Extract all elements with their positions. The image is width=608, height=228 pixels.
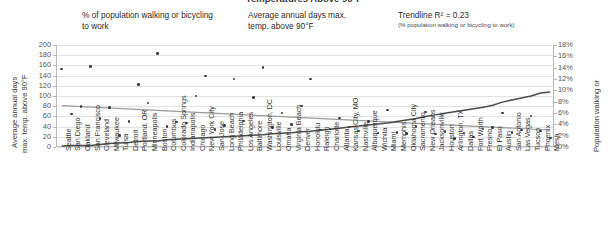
x-axis-labels: SeattleSan DiegoOaklandSan FranciscoClev… — [56, 148, 554, 228]
x-axis-tick-label: Raleigh — [322, 127, 331, 151]
x-axis-tick-label: Columbus — [169, 119, 178, 151]
x-axis-tick-label: Oklahoma City — [409, 104, 418, 151]
scatter-point — [128, 120, 131, 123]
chart-title: Temperatures Above 90°F — [0, 0, 608, 4]
x-axis-tick-label: Fort Worth — [476, 117, 485, 151]
x-axis-tick-label: Detroit — [131, 130, 140, 151]
x-axis-tick-label: Los Angeles — [246, 112, 255, 151]
right-axis-tick-label: 4% — [558, 119, 588, 128]
left-axis-tick-label: 0 — [25, 142, 51, 151]
scatter-point — [290, 123, 293, 126]
scatter-point — [60, 68, 63, 71]
scatter-point — [108, 106, 111, 109]
legend-label-hot-days: Average annual days max. temp. above 90°… — [248, 10, 368, 31]
x-axis-tick-label: Boston — [160, 129, 169, 151]
x-axis-tick-label: Las Vegas — [523, 117, 532, 151]
x-axis-tick-label: Arlington, TX — [456, 110, 465, 151]
x-axis-tick-label: Colorado Springs — [179, 95, 188, 151]
chart-legend: % of population walking or bicycling to … — [0, 10, 608, 40]
x-axis-tick-label: New York City — [207, 106, 216, 151]
scatter-point — [137, 83, 140, 86]
x-axis-tick-label: Seattle — [64, 129, 73, 151]
x-axis-tick-label: Denver — [303, 128, 312, 151]
x-axis-tick-label: Memphis — [399, 122, 408, 151]
x-axis-tick-label: Baltimore — [255, 121, 264, 151]
left-axis-title-line1: Average annual days — [10, 77, 19, 148]
x-axis-tick-label: Atlanta — [342, 129, 351, 151]
left-axis-tick-label: 120 — [25, 81, 51, 90]
x-axis-tick-label: Tulsa — [121, 134, 130, 151]
legend-label-percent-walking: % of population walking or bicycling to … — [82, 10, 222, 31]
right-axis-tick-label: 8% — [558, 97, 588, 106]
x-axis-tick-label: Houston — [447, 124, 456, 151]
left-axis-tick-label: 140 — [25, 71, 51, 80]
x-axis-tick-label: Louisville — [274, 121, 283, 151]
left-axis-tick-label: 80 — [25, 101, 51, 110]
left-axis-tick-label: 200 — [25, 40, 51, 49]
x-axis-tick-label: Milwaukee — [112, 117, 121, 151]
x-axis-tick-label: Albuquerque — [370, 110, 379, 151]
x-axis-tick-label: Mesa — [552, 133, 561, 151]
left-axis-tick-label: 100 — [25, 91, 51, 100]
x-axis-tick-label: Washington, DC — [265, 99, 274, 151]
left-axis-tick-label: 60 — [25, 111, 51, 120]
x-axis-tick-label: El Paso — [495, 126, 504, 151]
legend-label-trendline: Trendline R² = 0.23 — [398, 10, 469, 21]
x-axis-tick-label: Tucson — [533, 128, 542, 151]
x-axis-tick-label: Long Beach — [227, 113, 236, 151]
left-axis-tick-label: 160 — [25, 60, 51, 69]
x-axis-tick-label: San Jose — [217, 121, 226, 151]
x-axis-tick-label: San Antonio — [514, 112, 523, 151]
scatter-point — [89, 65, 92, 68]
x-axis-tick-label: San Francisco — [93, 105, 102, 151]
x-axis-tick-label: Nashville — [361, 122, 370, 151]
scatter-point — [252, 96, 255, 99]
left-axis-tick-label: 40 — [25, 122, 51, 131]
x-axis-tick-label: Dallas — [466, 131, 475, 151]
scatter-point — [262, 66, 265, 69]
scatter-point — [501, 112, 504, 115]
x-axis-tick-label: San Diego — [73, 117, 82, 151]
x-axis-tick-label: Portland, OR — [140, 109, 149, 151]
right-axis-tick-label: 6% — [558, 108, 588, 117]
x-axis-tick-label: Honolulu — [313, 123, 322, 151]
x-axis-tick-label: Minneapolis — [150, 113, 159, 151]
legend-dot-marker-icon — [66, 14, 68, 32]
x-axis-tick-label: New Orleans — [428, 109, 437, 151]
x-axis-tick-label: Sacramento — [418, 112, 427, 151]
x-axis-tick-label: Virginia Beach — [294, 105, 303, 151]
right-axis-tick-label: 18% — [558, 40, 588, 49]
x-axis-tick-label: Wichita — [380, 127, 389, 151]
x-axis-tick-label: Charlotte — [332, 122, 341, 151]
x-axis-tick-label: Cleveland — [102, 119, 111, 151]
right-axis-title: Population walking or — [592, 80, 601, 152]
x-axis-tick-label: Phoenix — [543, 125, 552, 151]
x-axis-tick-label: Philadelphia — [236, 112, 245, 151]
x-axis-tick-label: Austin — [504, 131, 513, 151]
left-axis-tick-label: 180 — [25, 50, 51, 59]
x-axis-tick-label: Miami — [389, 132, 398, 151]
right-axis-tick-label: 16% — [558, 51, 588, 60]
x-axis-tick-label: Jacksonville — [437, 112, 446, 151]
right-axis-tick-label: 12% — [558, 74, 588, 83]
scatter-point — [156, 52, 159, 55]
x-axis-tick-label: Omaha — [284, 127, 293, 151]
x-axis-tick-label: Indianapolis — [188, 113, 197, 151]
right-axis-tick-label: 0% — [558, 142, 588, 151]
right-axis-tick-label: 14% — [558, 63, 588, 72]
x-axis-tick-label: Fresno — [485, 129, 494, 151]
left-axis-tick-label: 20 — [25, 132, 51, 141]
x-axis-tick-label: Kansas City, MO — [351, 98, 360, 151]
x-axis-tick-label: Chicago — [198, 125, 207, 151]
chart-container: Temperatures Above 90°F % of population … — [0, 0, 608, 228]
right-axis-tick-label: 2% — [558, 131, 588, 140]
right-axis-tick-label: 10% — [558, 85, 588, 94]
legend-sublabel-trendline: (% population walking or bicycling to wo… — [398, 20, 515, 29]
x-axis-tick-label: Oakland — [83, 124, 92, 151]
